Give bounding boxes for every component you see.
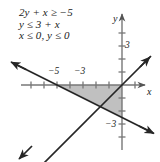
inequality-line-1: 2y + x ≥ −5	[19, 7, 73, 19]
inequality-graph-figure: 2y + x ≥ −5 y ≤ 3 + x x ≤ 0, y ≤ 0 y x −…	[0, 0, 160, 162]
x-tick-label-neg5: −5	[48, 66, 59, 76]
system-of-inequalities-text: 2y + x ≥ −5 y ≤ 3 + x x ≤ 0, y ≤ 0	[19, 7, 73, 42]
y-axis-label: y	[113, 13, 117, 24]
boundary-line-y-equals-3-plus-x-arrow-down	[19, 146, 32, 159]
y-tick-label-pos3: 3	[125, 40, 130, 50]
inequality-line-3: x ≤ 0, y ≤ 0	[19, 30, 73, 42]
boundary-line-2y-plus-x-equals-neg5-arrow-right	[139, 126, 154, 134]
boundary-line-y-equals-3-plus-x-arrow-up	[140, 57, 150, 67]
x-tick-label-neg3: −3	[74, 66, 85, 76]
boundary-line-y-equals-3-plus-x	[24, 56, 151, 162]
x-axis-label: x	[147, 86, 151, 97]
boundary-line-2y-plus-x-equals-neg5-arrow-left	[11, 62, 26, 70]
y-tick-label-neg3: −3	[105, 119, 116, 129]
